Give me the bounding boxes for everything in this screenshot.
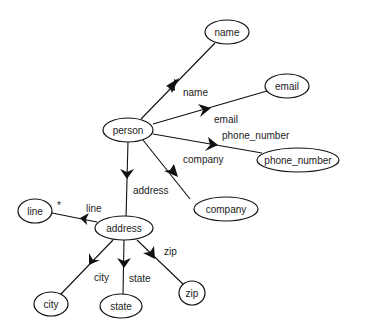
svg-text:person: person [113, 125, 144, 136]
edge-address-line [52, 213, 97, 222]
node-zip: zip [179, 281, 205, 305]
svg-text:address: address [106, 223, 142, 234]
edge-label-line: line [86, 203, 102, 214]
edge-label-zip: zip [164, 246, 177, 257]
schema-graph: name email phone_number company address … [0, 0, 369, 335]
edge-label-name: name [183, 87, 208, 98]
svg-text:email: email [275, 81, 299, 92]
edge-person-address [126, 141, 128, 219]
svg-text:line: line [27, 206, 43, 217]
node-state: state [100, 294, 142, 318]
arrow-icon [80, 213, 89, 225]
edge-label-email: email [214, 114, 238, 125]
edge-label-address: address [133, 185, 169, 196]
node-email: email [265, 74, 309, 98]
node-phone-number: phone_number [257, 148, 339, 172]
edge-label-phone-number: phone_number [222, 130, 290, 141]
svg-text:company: company [206, 204, 247, 215]
node-company: company [194, 197, 258, 221]
arrow-icon [205, 137, 218, 151]
svg-text:city: city [44, 299, 59, 310]
svg-text:zip: zip [186, 288, 199, 299]
edge-person-email [153, 91, 267, 124]
node-person: person [103, 118, 153, 142]
node-line: line [18, 199, 52, 223]
svg-text:state: state [110, 301, 132, 312]
node-city: city [34, 292, 68, 316]
edge-address-city [60, 240, 113, 295]
edge-label-state: state [129, 273, 151, 284]
edge-label-line-multiplicity: * [57, 200, 61, 211]
svg-text:phone_number: phone_number [264, 155, 332, 166]
node-address: address [95, 216, 153, 240]
edge-label-city: city [94, 272, 109, 283]
svg-text:name: name [214, 27, 239, 38]
node-name: name [205, 20, 249, 44]
edge-label-company: company [183, 154, 224, 165]
